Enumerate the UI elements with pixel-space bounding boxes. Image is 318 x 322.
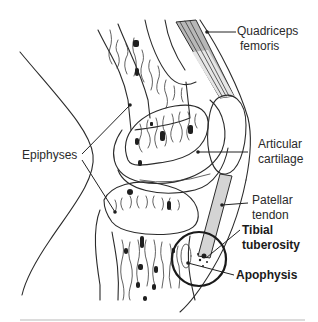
label-articular-cartilage: Articular cartilage xyxy=(258,137,303,167)
tibia xyxy=(95,210,195,301)
label-quadriceps: Quadriceps femoris xyxy=(237,24,298,54)
label-patellar-tendon: Patellar tendon xyxy=(252,193,293,223)
femoral-epiphysis xyxy=(114,100,228,193)
patellar-tendon xyxy=(180,174,246,312)
knee-diagram: Quadriceps femoris Articular cartilage E… xyxy=(0,0,318,322)
leader-lines xyxy=(82,30,248,275)
tibial-epiphysis xyxy=(104,182,198,235)
label-quadriceps-line2: femoris xyxy=(237,39,298,54)
label-tibial-tuberosity: Tibial tuberosity xyxy=(242,223,300,253)
label-tibial-line1: Tibial xyxy=(242,223,300,238)
label-articular-line1: Articular xyxy=(258,137,303,152)
label-articular-line2: cartilage xyxy=(258,152,303,167)
label-apophysis: Apophysis xyxy=(236,268,297,283)
label-patellar-line1: Patellar xyxy=(252,193,293,208)
label-quadriceps-line1: Quadriceps xyxy=(237,24,298,39)
femur xyxy=(98,20,196,130)
label-epiphyses: Epiphyses xyxy=(22,148,77,163)
label-patellar-line2: tendon xyxy=(252,208,293,223)
skin-outline-left xyxy=(20,52,93,295)
label-tibial-line2: tuberosity xyxy=(242,238,300,253)
